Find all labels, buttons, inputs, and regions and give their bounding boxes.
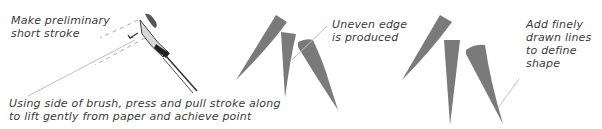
annotation-line: short stroke (11, 27, 110, 40)
brush-icon (140, 14, 197, 93)
annotation-technique: Using side of brush, press and pull stro… (9, 97, 281, 123)
annotation-line: shape (526, 57, 592, 70)
annotation-uneven-edge: Uneven edge is produced (332, 18, 407, 44)
tapered-strokes-step3 (402, 15, 519, 125)
brush-technique-diagram: Make preliminary short stroke Using side… (0, 0, 602, 129)
annotation-line: to define (526, 44, 592, 57)
annotation-line: is produced (332, 31, 407, 44)
tapered-strokes-step2 (236, 15, 338, 110)
annotation-line: Uneven edge (332, 18, 407, 31)
annotation-preliminary: Make preliminary short stroke (11, 14, 110, 40)
annotation-line: Using side of brush, press and pull stro… (9, 97, 281, 110)
annotation-line: Add finely (526, 18, 592, 31)
annotation-line: Make preliminary (11, 14, 110, 27)
annotation-line: drawn lines (526, 31, 592, 44)
annotation-fine-lines: Add finely drawn lines to define shape (526, 18, 592, 70)
annotation-line: to lift gently from paper and achieve po… (9, 110, 281, 123)
